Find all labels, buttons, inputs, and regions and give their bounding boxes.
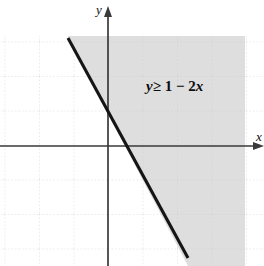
grid-lines [0,36,264,266]
inequality-coefficient: 2 [188,78,196,94]
inequality-minus-sign: − [176,78,185,94]
coordinate-plane [0,0,264,266]
graph-figure: 21. [0,0,264,266]
inequality-variable-x: x [196,78,204,94]
y-axis-label: y [96,3,102,16]
inequality-variable-y: y [146,78,153,94]
inequality-constant: 1 [165,78,173,94]
inequality-relation: ≥ [153,78,161,94]
x-axis-label: x [256,130,262,143]
inequality-annotation: y≥ 1 − 2x [146,79,203,94]
graph-svg [0,0,264,266]
